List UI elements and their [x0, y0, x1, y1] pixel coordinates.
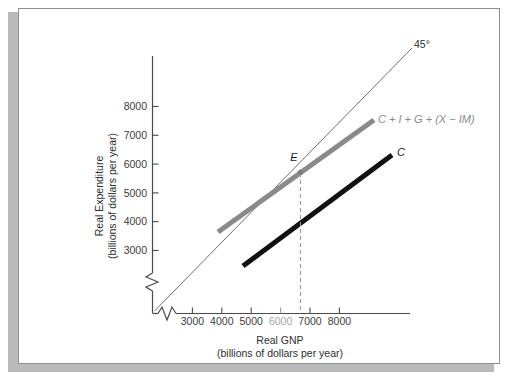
x-axis-tick-labels: 3000 4000 5000 6000 7000 8000 — [181, 315, 352, 327]
equilibrium-point-label: E — [290, 151, 298, 163]
x-axis-title: Real GNP — [256, 334, 303, 346]
x-tick-label-3000: 3000 — [181, 315, 205, 327]
label-consumption: C — [397, 146, 405, 158]
x-tick-label-4000: 4000 — [210, 315, 234, 327]
y-axis-title: Real Expenditure — [93, 156, 105, 237]
y-axis-ticks — [153, 107, 159, 251]
series-consumption-line — [243, 155, 392, 266]
y-tick-label-3000: 3000 — [124, 244, 148, 256]
y-tick-label-5000: 5000 — [124, 187, 148, 199]
series-45-degree-line — [155, 48, 413, 311]
label-aggregate-expenditure: C + I + G + (X − IM) — [378, 113, 475, 125]
x-tick-label-5000: 5000 — [240, 315, 264, 327]
x-axis-break-icon — [158, 307, 176, 320]
y-tick-label-7000: 7000 — [124, 129, 148, 141]
label-45-degree: 45° — [414, 38, 430, 50]
series-aggregate-expenditure-line — [218, 120, 374, 232]
y-tick-label-6000: 6000 — [124, 158, 148, 170]
y-axis-subtitle: (billions of dollars per year) — [106, 133, 118, 259]
figure-root: 3000 4000 5000 6000 7000 8000 3000 4000 … — [0, 0, 517, 390]
x-tick-label-8000: 8000 — [328, 315, 352, 327]
x-tick-label-7000: 7000 — [298, 315, 322, 327]
equilibrium-point-marker — [298, 169, 303, 174]
y-axis-tick-labels: 3000 4000 5000 6000 7000 8000 — [124, 100, 148, 256]
chart-canvas: 3000 4000 5000 6000 7000 8000 3000 4000 … — [0, 0, 517, 390]
x-axis-ticks — [192, 308, 339, 314]
y-tick-label-8000: 8000 — [124, 100, 148, 112]
x-axis-subtitle: (billions of dollars per year) — [217, 347, 343, 359]
y-axis-break-icon — [146, 273, 158, 291]
y-tick-label-4000: 4000 — [124, 215, 148, 227]
x-tick-label-6000: 6000 — [269, 315, 293, 327]
